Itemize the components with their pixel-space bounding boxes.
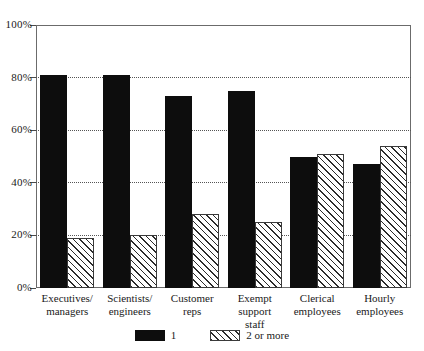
bar-series-2-or-more — [255, 222, 282, 288]
x-axis-category-label: Clerical employees — [286, 292, 349, 318]
x-axis-category-label: Executives/ managers — [36, 292, 99, 318]
bar-series-1 — [40, 75, 67, 288]
x-axis-category-label: Customer reps — [161, 292, 224, 318]
x-axis-category-label: Hourly employees — [349, 292, 412, 318]
y-axis-tick-label: 80% — [11, 72, 32, 83]
bar-series-2-or-more — [192, 214, 219, 288]
y-axis-tick-label: 0% — [17, 282, 32, 293]
bar-series-1 — [353, 164, 380, 288]
bar-series-2-or-more — [67, 238, 94, 288]
legend-entry: 1 — [135, 330, 177, 341]
legend-entry: 2 or more — [210, 330, 289, 341]
x-axis-category-label: Scientists/ engineers — [99, 292, 162, 318]
legend-label: 1 — [171, 330, 177, 341]
chart-legend: 12 or more — [0, 330, 424, 341]
bar-series-2-or-more — [130, 235, 157, 288]
solid-black-swatch — [135, 330, 165, 341]
bar-series-2-or-more — [380, 146, 407, 288]
legend-label: 2 or more — [246, 330, 289, 341]
bar-series-1 — [103, 75, 130, 288]
gridline — [36, 77, 411, 78]
grouped-bar-chart: 0%20%40%60%80%100% Executives/ managersS… — [0, 0, 424, 351]
x-axis-category-label: Exempt support staff — [224, 292, 287, 331]
y-axis-tick-label: 100% — [6, 19, 32, 30]
bar-series-2-or-more — [317, 154, 344, 288]
bar-series-1 — [290, 157, 317, 289]
y-axis-tick-label: 60% — [11, 124, 32, 135]
bar-series-1 — [228, 91, 255, 288]
bar-series-1 — [165, 96, 192, 288]
y-axis-tick-label: 40% — [11, 177, 32, 188]
diagonal-hatch-swatch — [210, 330, 240, 341]
gridline — [36, 130, 411, 131]
y-axis-tick-label: 20% — [11, 229, 32, 240]
